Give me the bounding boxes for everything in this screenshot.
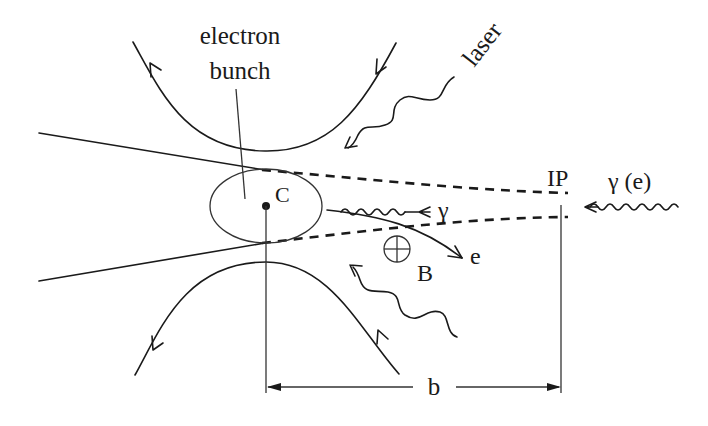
label-interaction-point: IP — [547, 165, 568, 191]
arrowhead-right-icon — [547, 383, 561, 391]
arrow-icon-upper-left — [150, 63, 161, 77]
incoming-gamma-beam — [585, 202, 678, 212]
magnetic-field-into-page-icon — [384, 236, 410, 262]
label-incoming-beam: γ (e) — [607, 168, 651, 194]
arrow-icon-lower-right — [377, 330, 388, 344]
label-distance-b: b — [428, 373, 441, 400]
label-laser: laser — [457, 17, 508, 71]
arrow-icon-incoming — [585, 202, 598, 212]
arrow-icon-laser-upper — [345, 137, 357, 148]
laser-photon-upper — [345, 77, 454, 148]
label-electron: electron — [200, 22, 281, 49]
label-center-c: C — [275, 182, 290, 207]
label-magnetic-field-b: B — [417, 260, 433, 286]
arrow-icon-gamma — [405, 207, 430, 217]
compton-backscattering-diagram: electron bunch laser C γ e B IP γ (e) b — [0, 0, 708, 426]
electron-beam-envelope — [39, 133, 265, 281]
laser-photon-lower — [350, 265, 457, 337]
electron-bunch-leader-line — [236, 89, 245, 199]
distance-dimension-b — [267, 383, 561, 391]
label-gamma: γ — [437, 197, 449, 223]
label-bunch: bunch — [209, 57, 271, 84]
arrow-icon-upper-right — [376, 59, 386, 74]
scattered-gamma-photon — [341, 207, 430, 217]
arrow-icon-lower-left — [152, 336, 163, 350]
label-electron-e: e — [470, 243, 481, 269]
arrowhead-left-icon — [267, 383, 281, 391]
